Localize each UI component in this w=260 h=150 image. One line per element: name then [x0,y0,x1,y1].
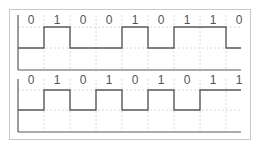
bit-label: 0 [236,13,243,27]
bit-label: 1 [158,73,165,87]
bit-label: 1 [132,13,139,27]
bit-label: 1 [54,13,61,27]
bit-label: 1 [236,73,243,87]
signal-top: 010010110 [18,13,243,70]
bit-label: 0 [80,13,87,27]
bit-label: 1 [210,73,217,87]
bit-label: 1 [54,73,61,87]
bit-label: 0 [28,73,35,87]
bit-label: 0 [80,73,87,87]
waveform [18,27,241,48]
signal-bottom: 010101011 [18,73,243,132]
bit-label: 0 [28,13,35,27]
digital-signal-diagram: 010010110010101011 [0,0,260,150]
bit-label: 1 [210,13,217,27]
bit-label: 0 [184,73,191,87]
bit-label: 1 [106,73,113,87]
bit-label: 0 [132,73,139,87]
bit-label: 0 [158,13,165,27]
waveform [18,90,241,110]
bit-label: 1 [184,13,191,27]
bit-label: 0 [106,13,113,27]
